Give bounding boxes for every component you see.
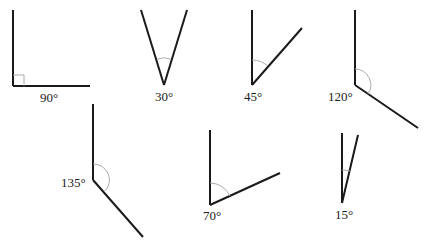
- angle-arc: [158, 58, 171, 59]
- angles-diagram: 90° 30° 45° 120° 135° 70°: [0, 0, 434, 243]
- angle-label: 15°: [335, 207, 353, 222]
- angle-120: 120°: [328, 10, 418, 128]
- ray-right: [164, 10, 187, 85]
- angle-arc: [210, 183, 230, 196]
- angle-90: 90°: [13, 10, 90, 105]
- angle-label: 90°: [40, 90, 58, 105]
- ray-diagonal: [342, 135, 358, 203]
- ray-left: [141, 10, 164, 85]
- angle-135: 135°: [61, 104, 143, 237]
- angle-15: 15°: [335, 133, 358, 222]
- angle-label: 120°: [328, 89, 353, 104]
- ray-diagonal: [252, 28, 302, 85]
- angle-label: 30°: [155, 89, 173, 104]
- right-angle-marker: [13, 75, 24, 86]
- angle-70: 70°: [203, 130, 280, 223]
- angle-label: 45°: [244, 89, 262, 104]
- ray-diagonal: [93, 180, 143, 237]
- ray-diagonal: [210, 173, 280, 205]
- angle-label: 70°: [203, 208, 221, 223]
- angle-45: 45°: [244, 10, 302, 104]
- angle-30: 30°: [141, 10, 187, 104]
- angle-arc: [93, 164, 109, 192]
- angle-label: 135°: [61, 175, 86, 190]
- angle-arc: [252, 60, 268, 66]
- ray-diagonal: [355, 85, 418, 128]
